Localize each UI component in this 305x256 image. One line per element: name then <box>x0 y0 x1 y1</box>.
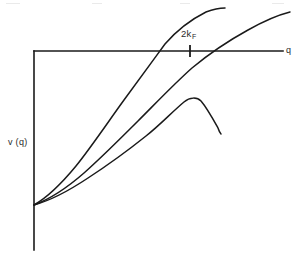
curve-peaked <box>34 98 221 205</box>
x-axis-label: q <box>286 46 291 55</box>
tick-label-2kf: 2kF <box>181 29 196 39</box>
figure-container: q v (q) 2kF <box>0 0 305 256</box>
y-axis-label: v (q) <box>8 138 28 147</box>
plot-canvas <box>0 0 305 256</box>
tick-label-subscript: F <box>192 33 197 40</box>
tick-label-base: 2k <box>181 28 192 39</box>
curve-middle <box>34 12 290 205</box>
